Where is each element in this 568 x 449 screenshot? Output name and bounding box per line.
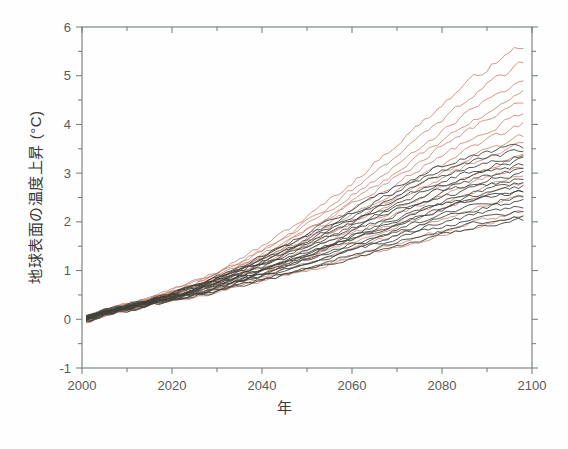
x-axis-tick-label: 2040 xyxy=(248,378,277,393)
y-axis-tick-label: 1 xyxy=(64,263,71,278)
y-axis-tick-label: 4 xyxy=(64,117,71,132)
figure-canvas: 200020202040206020802100-10123456 地球表面の温… xyxy=(0,0,568,449)
caption-fragment xyxy=(18,432,318,446)
series-line xyxy=(87,150,524,319)
x-axis-tick-label: 2080 xyxy=(428,378,457,393)
series-line xyxy=(87,167,524,315)
series-line xyxy=(87,81,524,316)
y-axis-tick-label: -1 xyxy=(59,361,71,376)
chart-plot: 200020202040206020802100-10123456 xyxy=(0,0,568,449)
series-group xyxy=(87,48,524,323)
series-line xyxy=(87,164,524,316)
y-axis-tick-label: 5 xyxy=(64,68,71,83)
x-axis-label: 年 xyxy=(0,396,568,417)
x-axis-tick-label: 2020 xyxy=(158,378,187,393)
series-line xyxy=(87,62,524,319)
series-line xyxy=(87,91,524,321)
y-axis-tick-label: 2 xyxy=(64,214,71,229)
x-axis-tick-label: 2100 xyxy=(518,378,547,393)
y-axis-tick-label: 0 xyxy=(64,312,71,327)
x-axis-tick-label: 2060 xyxy=(338,378,367,393)
y-axis-tick-label: 3 xyxy=(64,166,71,181)
x-axis-tick-label: 2000 xyxy=(68,378,97,393)
series-line xyxy=(87,114,524,319)
y-axis-tick-label: 6 xyxy=(64,20,71,35)
series-line xyxy=(87,48,524,318)
